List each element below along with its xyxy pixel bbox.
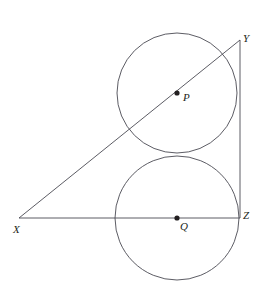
center-dot-Q <box>174 215 179 220</box>
geometry-figure: X Y Z P Q <box>0 0 258 302</box>
center-label-P: P <box>183 92 190 103</box>
vertex-label-Y: Y <box>243 33 249 44</box>
vertex-label-Z: Z <box>243 210 249 221</box>
center-label-Q: Q <box>180 221 188 232</box>
vertex-label-X: X <box>13 224 20 235</box>
center-dot-P <box>174 90 179 95</box>
geometry-canvas <box>0 0 258 302</box>
